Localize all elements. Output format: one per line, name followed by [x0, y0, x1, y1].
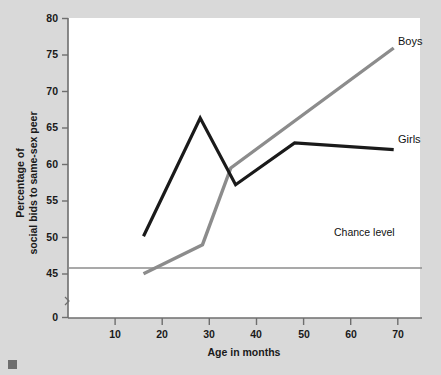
x-tick-label-10: 10 [102, 328, 128, 340]
y-tick-label-75: 75 [36, 48, 58, 60]
y-tick-label-0: 0 [36, 311, 58, 323]
x-axis-ticks [115, 318, 398, 325]
chart-figure: 80 75 70 65 60 55 50 45 0 10 20 30 40 50… [0, 0, 441, 375]
x-tick-label-70: 70 [385, 328, 411, 340]
x-axis-title: Age in months [68, 346, 420, 358]
series-line-girls [144, 118, 394, 236]
y-axis-title: Percentage of social bids to same-sex pe… [14, 88, 40, 278]
x-tick-label-20: 20 [149, 328, 175, 340]
axis-lines [68, 18, 422, 318]
x-tick-label-60: 60 [338, 328, 364, 340]
y-tick-label-80: 80 [36, 12, 58, 24]
y-axis-title-line-2: social bids to same-sex peer [27, 88, 40, 278]
chart-canvas [0, 0, 441, 375]
page-corner-mark [8, 360, 17, 369]
series-label-girls: Girls [398, 133, 421, 145]
y-axis-title-line-1: Percentage of [14, 88, 27, 278]
chance-level-label: Chance level [334, 226, 395, 238]
x-tick-label-40: 40 [243, 328, 269, 340]
y-axis-ticks [62, 19, 68, 318]
x-tick-label-50: 50 [291, 328, 317, 340]
x-tick-label-30: 30 [196, 328, 222, 340]
series-label-boys: Boys [398, 35, 422, 47]
